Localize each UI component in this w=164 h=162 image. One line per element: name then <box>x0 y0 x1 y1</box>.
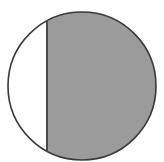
figure-canvas <box>0 0 164 162</box>
circle-segment-illustration <box>0 0 164 162</box>
right-major-segment-fill <box>47 0 164 162</box>
